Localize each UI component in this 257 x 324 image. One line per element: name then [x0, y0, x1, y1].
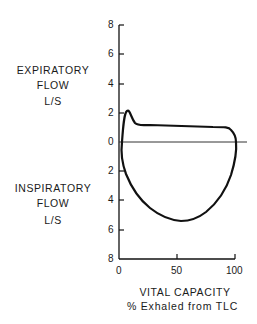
x-tick-100: 100: [226, 266, 243, 276]
flow-volume-chart: [0, 0, 257, 324]
y-tick-8-upper: 8: [108, 20, 114, 30]
flow-volume-loop: [122, 111, 237, 221]
y-tick-2-lower: 2: [108, 166, 114, 176]
inspiratory-label-line1: INSPIRATORY: [4, 183, 102, 194]
inspiratory-label-line3: L/S: [4, 215, 102, 226]
y-tick-2-upper: 2: [108, 108, 114, 118]
y-tick-6-lower: 6: [108, 225, 114, 235]
inspiratory-label-line2: FLOW: [4, 198, 102, 209]
expiratory-label-line3: L/S: [8, 96, 98, 107]
x-tick-0: 0: [116, 266, 122, 276]
y-tick-8-lower: 8: [108, 254, 114, 264]
y-tick-6-upper: 6: [108, 49, 114, 59]
x-axis-label: VITAL CAPACITY: [125, 287, 245, 298]
x-axis-sublabel: % Exhaled from TLC: [110, 301, 255, 312]
x-ticks: [177, 254, 235, 259]
expiratory-label-line1: EXPIRATORY: [8, 65, 98, 76]
y-tick-4-upper: 4: [108, 79, 114, 89]
x-tick-50: 50: [171, 266, 182, 276]
y-tick-4-lower: 4: [108, 195, 114, 205]
y-tick-0: 0: [108, 137, 114, 147]
expiratory-label-line2: FLOW: [8, 80, 98, 91]
